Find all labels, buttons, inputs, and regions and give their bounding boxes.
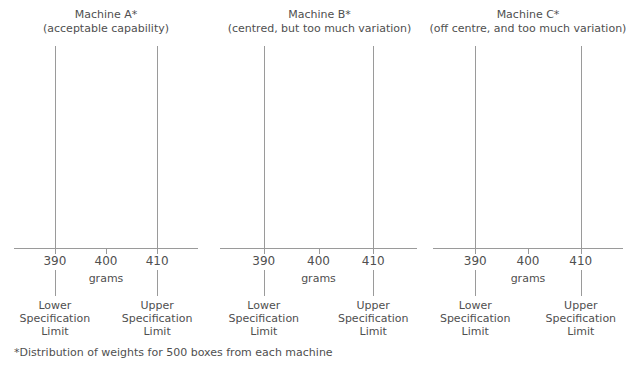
lower-spec-label-line2: Specification (427, 312, 523, 325)
panel-c-title-line1: Machine C* (497, 8, 560, 21)
lower-spec-connector (264, 270, 265, 296)
lower-spec-label-line1: Lower (427, 299, 523, 312)
lower-spec-label-line3: Limit (427, 325, 523, 338)
lower-spec-label-line1: Lower (216, 299, 312, 312)
figure-footnote: *Distribution of weights for 500 boxes f… (14, 346, 333, 359)
x-axis-units-label: grams (76, 272, 136, 285)
upper-spec-connector (157, 270, 158, 296)
lower-spec-label-line3: Limit (7, 325, 103, 338)
upper-spec-label-line2: Specification (533, 312, 629, 325)
panel-b-title: Machine B* (centred, but too much variat… (212, 8, 427, 36)
upper-spec-label-line2: Specification (109, 312, 205, 325)
x-tick-label: 410 (561, 254, 601, 268)
panel-b-title-line2: (centred, but too much variation) (212, 22, 427, 36)
upper-spec-label-line1: Upper (325, 299, 421, 312)
upper-spec-limit-label: UpperSpecificationLimit (533, 299, 629, 338)
upper-spec-limit-line (373, 46, 374, 248)
x-tick-label: 410 (353, 254, 393, 268)
lower-spec-limit-label: LowerSpecificationLimit (216, 299, 312, 338)
lower-spec-label-line2: Specification (216, 312, 312, 325)
panel-machine-b: Machine B* (centred, but too much variat… (212, 0, 427, 345)
panel-machine-c: Machine C* (off centre, and too much var… (427, 0, 629, 345)
upper-spec-label-line3: Limit (325, 325, 421, 338)
panel-a-title: Machine A* (acceptable capability) (0, 8, 212, 36)
panel-c-title-line2: (off centre, and too much variation) (427, 22, 629, 36)
x-tick-label: 390 (244, 254, 284, 268)
lower-spec-limit-label: LowerSpecificationLimit (7, 299, 103, 338)
panel-b-title-line1: Machine B* (288, 8, 351, 21)
upper-spec-connector (373, 270, 374, 296)
upper-spec-label-line1: Upper (533, 299, 629, 312)
lower-spec-label-line1: Lower (7, 299, 103, 312)
upper-spec-limit-line (581, 46, 582, 248)
lower-spec-label-line3: Limit (216, 325, 312, 338)
upper-spec-limit-label: UpperSpecificationLimit (109, 299, 205, 338)
lower-spec-connector (475, 270, 476, 296)
panel-a-title-line1: Machine A* (75, 8, 138, 21)
x-tick-label: 390 (35, 254, 75, 268)
upper-spec-label-line2: Specification (325, 312, 421, 325)
upper-spec-label-line1: Upper (109, 299, 205, 312)
upper-spec-limit-label: UpperSpecificationLimit (325, 299, 421, 338)
lower-spec-limit-line (475, 46, 476, 248)
spc-capability-figure: Machine A* (acceptable capability) 39040… (0, 0, 629, 368)
x-tick-label: 400 (299, 254, 339, 268)
lower-spec-limit-line (264, 46, 265, 248)
x-tick-label: 410 (137, 254, 177, 268)
lower-spec-limit-label: LowerSpecificationLimit (427, 299, 523, 338)
upper-spec-connector (581, 270, 582, 296)
lower-spec-limit-line (55, 46, 56, 248)
upper-spec-label-line3: Limit (109, 325, 205, 338)
panel-machine-a: Machine A* (acceptable capability) 39040… (0, 0, 212, 345)
x-tick-label: 400 (508, 254, 548, 268)
x-tick-label: 400 (86, 254, 126, 268)
panel-a-title-line2: (acceptable capability) (0, 22, 212, 36)
upper-spec-limit-line (157, 46, 158, 248)
x-axis-units-label: grams (498, 272, 558, 285)
lower-spec-label-line2: Specification (7, 312, 103, 325)
x-tick-label: 390 (455, 254, 495, 268)
upper-spec-label-line3: Limit (533, 325, 629, 338)
panel-c-title: Machine C* (off centre, and too much var… (427, 8, 629, 36)
x-axis-units-label: grams (289, 272, 349, 285)
lower-spec-connector (55, 270, 56, 296)
